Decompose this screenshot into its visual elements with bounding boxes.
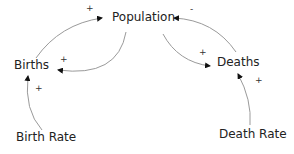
node-death-rate: Death Rate <box>219 127 287 141</box>
node-deaths: Deaths <box>217 55 260 69</box>
link-births-to-population <box>36 18 102 58</box>
polarity-population-to-deaths: + <box>199 47 207 57</box>
node-births: Births <box>14 58 49 72</box>
link-deathrate-to-deaths <box>238 74 250 125</box>
polarity-births-to-population: + <box>86 3 94 13</box>
node-birth-rate: Birth Rate <box>16 130 76 144</box>
link-population-to-births <box>58 32 126 71</box>
polarity-birthrate-to-births: + <box>35 83 43 93</box>
polarity-deaths-to-population: - <box>190 4 193 14</box>
polarity-deathrate-to-deaths: + <box>255 75 263 85</box>
node-population: Population <box>112 10 175 24</box>
polarity-population-to-births: + <box>60 54 68 64</box>
